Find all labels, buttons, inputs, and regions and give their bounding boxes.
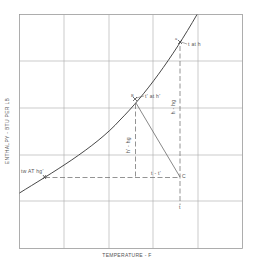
- point-a-label: t at h: [188, 41, 201, 47]
- plot-frame: [20, 15, 243, 249]
- segment-horizontal-label: t - t': [151, 170, 161, 176]
- segment-a-label: h - hg: [170, 100, 176, 115]
- point-b-label: t' at h': [145, 93, 160, 99]
- x-axis-label: TEMPERATURE - F: [0, 252, 254, 258]
- point-a-letter: a: [175, 36, 178, 41]
- segment-b-label: h' - hg: [125, 137, 131, 153]
- bottom-t-label: t: [179, 204, 181, 210]
- grid-horizontal: [20, 61, 243, 201]
- point-c-label: C: [182, 173, 186, 179]
- point-b-letter: B: [131, 93, 134, 98]
- grid-vertical: [64, 15, 198, 249]
- construction-lines: [45, 46, 180, 205]
- y-axis-label: ENTHALPY - BTU PER LB: [4, 76, 10, 186]
- enthalpy-temperature-diagram: [0, 0, 254, 265]
- point-tw-label: tw AT hg': [21, 168, 44, 174]
